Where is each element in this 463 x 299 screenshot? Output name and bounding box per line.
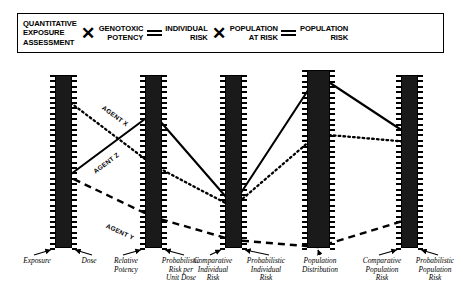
legend-term-line: ASSESSMENT [23, 38, 77, 47]
legend-term-population-at-risk: POPULATIONAT RISK [230, 24, 278, 43]
legend-term-line: RISK [165, 33, 207, 42]
legend-box: QUANTITATIVEEXPOSUREASSESSMENT✕GENOTOXIC… [17, 13, 444, 53]
legend-operator-times-icon: ✕ [208, 25, 230, 42]
caption-arrow [422, 250, 439, 255]
equals-icon [147, 27, 162, 39]
equals-icon [281, 27, 296, 39]
legend-term-line: POTENCY [99, 33, 144, 42]
axis-caption: Probabilistic Population Risk [397, 257, 463, 283]
legend-term-line: POPULATION [230, 24, 278, 33]
legend-operator-equals-icon [278, 27, 300, 39]
multiply-icon: ✕ [81, 25, 95, 42]
diagram-root: QUANTITATIVEEXPOSUREASSESSMENT✕GENOTOXIC… [0, 0, 463, 299]
caption-arrow [34, 250, 51, 255]
legend-term-line: EXPOSURE [23, 28, 77, 37]
legend-term-line: INDIVIDUAL [165, 24, 207, 33]
legend-term-line: GENOTOXIC [99, 24, 144, 33]
caption-arrow [123, 250, 141, 255]
legend-term-line: RISK [300, 33, 348, 42]
legend-operator-times-icon: ✕ [77, 25, 99, 42]
legend-term-individual-risk: INDIVIDUALRISK [165, 24, 207, 43]
legend-term-quantitative-exposure-assessment: QUANTITATIVEEXPOSUREASSESSMENT [18, 19, 77, 47]
multiply-icon: ✕ [212, 25, 226, 42]
legend-term-genotoxic-potency: GENOTOXICPOTENCY [99, 24, 144, 43]
legend-term-line: QUANTITATIVE [23, 19, 77, 28]
legend-row: QUANTITATIVEEXPOSUREASSESSMENT✕GENOTOXIC… [18, 14, 443, 52]
caption-arrow [76, 250, 93, 255]
legend-operator-equals-icon [143, 27, 165, 39]
legend-term-line: POPULATION [300, 24, 348, 33]
legend-term-line: AT RISK [230, 33, 278, 42]
caption-arrow [246, 250, 270, 255]
caption-arrow [210, 250, 221, 255]
caption-arrow [166, 250, 185, 255]
legend-term-population-risk: POPULATIONRISK [300, 24, 348, 43]
caption-arrow [379, 250, 397, 255]
caption-arrow [318, 250, 320, 255]
plot-area: ExposureDoseRelative PotencyProbabilisti… [0, 57, 463, 299]
